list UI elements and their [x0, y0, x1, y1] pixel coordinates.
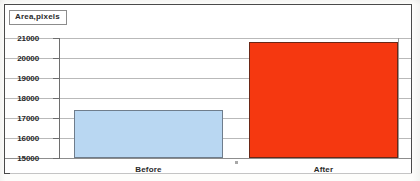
y-tick-18000: [53, 98, 60, 99]
bar-after: [249, 42, 398, 158]
chart-frame: Area,pixels: [4, 4, 412, 174]
y-label-16000: 16000: [0, 134, 39, 143]
y-label-19000: 19000: [0, 74, 39, 83]
y-tick-15000: [53, 158, 60, 159]
y-label-17000: 17000: [0, 114, 39, 123]
gridline-20000: [5, 58, 411, 59]
y-tick-19000: [53, 78, 60, 79]
y-label-20000: 20000: [0, 54, 39, 63]
gridline-17000: [5, 118, 411, 119]
y-label-15000: 15000: [0, 154, 39, 163]
gridline-16000: [5, 138, 411, 139]
y-axis-title: Area,pixels: [9, 10, 67, 25]
gridline-21000: [5, 38, 411, 39]
y-label-18000: 18000: [0, 94, 39, 103]
chart-screenshot: Area,pixels: [0, 0, 420, 181]
plot-right-border: [398, 38, 399, 159]
gridline-19000: [5, 78, 411, 79]
gridline-18000: [5, 98, 411, 99]
y-tick-17000: [53, 118, 60, 119]
category-divider-tick: [235, 161, 238, 164]
bottom-rule: [10, 173, 412, 174]
y-tick-16000: [53, 138, 60, 139]
gridline-15000: [5, 158, 411, 159]
y-label-21000: 21000: [0, 34, 39, 43]
y-tick-20000: [53, 58, 60, 59]
y-tick-21000: [53, 38, 60, 39]
